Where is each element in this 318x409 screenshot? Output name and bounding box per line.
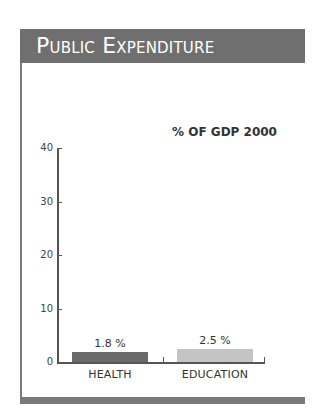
bar-value-label: 2.5 % (177, 334, 253, 347)
frame-left-border (20, 63, 22, 398)
x-tick (264, 357, 265, 363)
y-tick-label: 30 (33, 197, 53, 207)
y-tick (57, 148, 62, 149)
header-bar: Public Expenditure (20, 29, 305, 63)
bar-health (72, 352, 148, 362)
x-tick (163, 357, 164, 363)
y-tick-label: 10 (33, 304, 53, 314)
y-tick (57, 309, 62, 310)
x-axis (57, 362, 265, 364)
bar-value-label: 1.8 % (72, 337, 148, 350)
category-label: EDUCATION (170, 368, 260, 381)
chart-title: % OF GDP 2000 (172, 125, 277, 139)
frame-bottom-bar (20, 397, 305, 404)
category-label: HEALTH (65, 368, 155, 381)
y-tick (57, 255, 62, 256)
bar-education (177, 349, 253, 362)
page-title: Public Expenditure (36, 34, 214, 58)
y-tick-label: 0 (33, 357, 53, 367)
y-tick-label: 20 (33, 250, 53, 260)
y-tick-label: 40 (33, 143, 53, 153)
y-tick (57, 202, 62, 203)
